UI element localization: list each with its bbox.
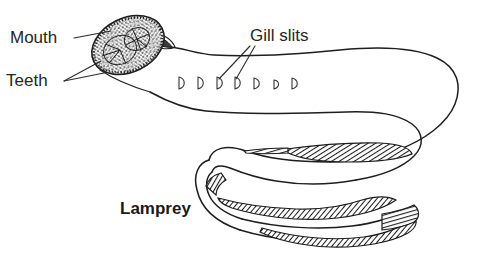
label-teeth: Teeth (6, 71, 48, 90)
label-gill-slits: Gill slits (250, 26, 309, 45)
lamprey-figure: Mouth Teeth Gill slits Lamprey (0, 0, 483, 255)
label-lamprey: Lamprey (120, 199, 191, 218)
lamprey-illustration: Mouth Teeth Gill slits Lamprey (0, 0, 483, 255)
label-mouth: Mouth (10, 28, 57, 47)
